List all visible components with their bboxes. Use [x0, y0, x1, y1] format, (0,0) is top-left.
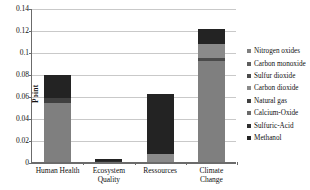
legend-item[interactable]: Sulfur dioxide: [247, 70, 309, 82]
legend-swatch-icon: [247, 136, 251, 140]
legend-item[interactable]: Carbon monoxide: [247, 57, 309, 69]
y-axis-tick-mark: [29, 53, 32, 54]
y-axis-tick-mark: [29, 141, 32, 142]
y-axis-tick-label: 0.06: [16, 93, 29, 101]
y-axis-tick-label: 0.1: [20, 49, 29, 57]
gridline: [32, 9, 236, 10]
legend-item[interactable]: Methanol: [247, 132, 309, 144]
legend-swatch-icon: [247, 111, 251, 115]
y-axis-tick-label: 0.02: [16, 137, 29, 145]
bar-column[interactable]: [44, 75, 71, 162]
legend-swatch-icon: [247, 86, 251, 90]
y-axis-tick-mark: [29, 119, 32, 120]
bar-segment[interactable]: [95, 161, 122, 162]
legend-item[interactable]: Natural gas: [247, 95, 309, 107]
plot-area: Point 00.020.040.060.080.10.120.14 Human…: [31, 9, 236, 163]
x-axis-tick-mark: [237, 162, 238, 165]
legend-label: Carbon monoxide: [254, 60, 306, 68]
x-axis-label: Climate Change: [199, 166, 224, 184]
legend-item[interactable]: Sulfuric-Acid: [247, 119, 309, 131]
stacked-bar-chart: Point 00.020.040.060.080.10.120.14 Human…: [0, 0, 310, 190]
bar-column[interactable]: [147, 94, 174, 162]
y-axis-tick-label: 0.12: [16, 27, 29, 35]
legend-swatch-icon: [247, 62, 251, 66]
y-axis-tick-mark: [29, 75, 32, 76]
y-axis-tick-mark: [29, 163, 32, 164]
bar-segment[interactable]: [44, 75, 71, 98]
y-axis-tick-label: 0.14: [16, 5, 29, 13]
bar-segment[interactable]: [147, 154, 174, 162]
legend-item[interactable]: Carbon dioxide: [247, 82, 309, 94]
legend-label: Methanol: [254, 134, 282, 142]
legend-swatch-icon: [247, 74, 251, 78]
legend-label: Sulfur dioxide: [254, 72, 295, 80]
bar-segment[interactable]: [198, 44, 225, 57]
x-axis-tick-mark: [186, 162, 187, 165]
bar-column[interactable]: [198, 29, 225, 162]
x-axis-label: Ressources: [143, 166, 177, 175]
legend-swatch-icon: [247, 99, 251, 103]
bar-segment[interactable]: [198, 61, 225, 162]
x-axis-label: Human Health: [36, 166, 80, 175]
y-axis-tick-label: 0.08: [16, 71, 29, 79]
legend-item[interactable]: Calcium-Oxide: [247, 107, 309, 119]
legend-label: Calcium-Oxide: [254, 109, 298, 117]
x-axis-tick-mark: [135, 162, 136, 165]
y-axis-tick-mark: [29, 97, 32, 98]
x-axis-label: Ecosystem Quality: [93, 166, 126, 184]
legend-swatch-icon: [247, 49, 251, 53]
y-axis-tick-mark: [29, 9, 32, 10]
x-axis-tick-mark: [83, 162, 84, 165]
bar-segment[interactable]: [147, 94, 174, 155]
legend-item[interactable]: Nitrogen oxides: [247, 45, 309, 57]
legend-swatch-icon: [247, 124, 251, 128]
bar-segment[interactable]: [198, 29, 225, 44]
legend-label: Carbon dioxide: [254, 84, 299, 92]
bar-column[interactable]: [95, 159, 122, 162]
legend-label: Natural gas: [254, 97, 287, 105]
legend-label: Nitrogen oxides: [254, 47, 300, 55]
y-axis-tick-label: 0.04: [16, 115, 29, 123]
legend-label: Sulfuric-Acid: [254, 122, 294, 130]
chart-legend: Nitrogen oxidesCarbon monoxideSulfur dio…: [247, 45, 309, 144]
y-axis-tick-mark: [29, 31, 32, 32]
bar-segment[interactable]: [44, 103, 71, 162]
y-axis-title: Point: [31, 84, 40, 103]
